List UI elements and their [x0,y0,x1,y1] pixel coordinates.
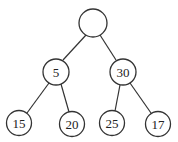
tree-node-25: 25 [100,111,125,136]
edge-30-17 [130,83,151,113]
edge-5-20 [61,84,69,112]
tree-node-15: 15 [7,111,32,136]
node-label: 5 [53,65,60,80]
node-label: 25 [106,116,119,131]
edge-30-25 [115,85,120,111]
node-label: 30 [117,65,130,80]
edge-root-5 [63,35,86,60]
binary-tree-diagram: 5 30 15 20 25 17 [0,0,178,142]
tree-node-5: 5 [43,59,69,85]
edge-5-15 [27,83,49,113]
node-label: 15 [13,116,26,131]
node-circle [79,9,107,37]
tree-node-20: 20 [60,112,85,137]
tree-node-17: 17 [146,112,171,137]
edge-root-30 [100,35,116,60]
node-label: 20 [66,117,79,132]
tree-node-root [79,9,107,37]
node-label: 17 [152,117,166,132]
tree-node-30: 30 [110,59,136,85]
